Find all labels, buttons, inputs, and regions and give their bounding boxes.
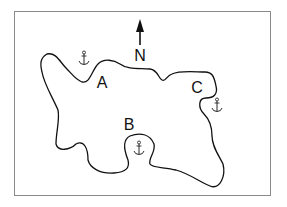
anchor-icon [79, 51, 89, 65]
north-arrow-icon [136, 19, 144, 45]
island-map [0, 0, 287, 207]
location-label-c: C [191, 80, 203, 96]
location-label-a: A [97, 75, 108, 91]
compass-north-label: N [134, 48, 146, 64]
anchor-icon [134, 141, 144, 155]
anchor-icon [212, 98, 222, 112]
location-label-b: B [124, 117, 135, 133]
